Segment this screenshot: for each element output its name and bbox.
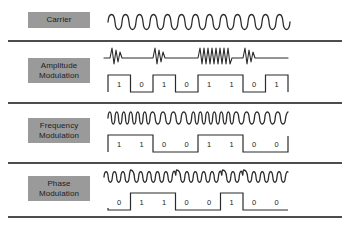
modulation-diagram: Carrier Amplitude Modulation 1 0 1 0 1 1…	[0, 0, 350, 230]
fsk-bit-0: 1	[117, 140, 121, 149]
carrier-waveform	[104, 8, 296, 36]
frequency-modulation-digital: 1 1 0 0 1 1 0 0	[104, 130, 296, 158]
label-frequency-line-2: Modulation	[39, 131, 79, 141]
label-amplitude-line-2: Modulation	[39, 71, 79, 81]
label-amplitude-line-1: Amplitude	[41, 61, 77, 71]
ask-bit-2: 1	[162, 80, 166, 89]
ask-signal-path	[104, 48, 288, 64]
psk-bit-1: 1	[140, 198, 144, 207]
fsk-bit-1: 1	[140, 140, 144, 149]
psk-digital-path	[108, 193, 288, 210]
label-frequency-line-1: Frequency	[40, 121, 79, 131]
fsk-bit-4: 1	[207, 140, 211, 149]
label-phase-line-2: Modulation	[39, 189, 79, 199]
separator-line-1	[8, 40, 342, 42]
psk-signal-path	[104, 170, 288, 182]
psk-bit-6: 0	[252, 198, 256, 207]
psk-bit-4: 0	[207, 198, 211, 207]
ask-digital-path	[108, 75, 288, 92]
label-box-frequency-modulation: Frequency Modulation	[28, 118, 90, 143]
separator-line-4	[8, 216, 342, 218]
label-carrier-line-1: Carrier	[46, 15, 71, 25]
carrier-sine-path	[108, 15, 290, 30]
ask-bit-7: 1	[275, 80, 279, 89]
fsk-signal-path	[108, 112, 288, 124]
label-phase-line-1: Phase	[47, 179, 70, 189]
separator-line-3	[8, 162, 342, 164]
fsk-bit-6: 0	[252, 140, 256, 149]
fsk-bit-7: 0	[275, 140, 279, 149]
phase-modulation-digital: 0 1 1 0 0 1 0 0	[104, 188, 296, 214]
psk-bit-2: 1	[162, 198, 166, 207]
label-box-phase-modulation: Phase Modulation	[28, 176, 90, 201]
psk-bit-0: 0	[117, 198, 121, 207]
ask-bit-4: 1	[207, 80, 211, 89]
label-box-carrier: Carrier	[28, 12, 90, 28]
fsk-digital-path	[108, 135, 288, 152]
ask-bit-1: 0	[140, 80, 144, 89]
fsk-bit-5: 1	[230, 140, 234, 149]
psk-bit-3: 0	[185, 198, 189, 207]
psk-bit-7: 0	[275, 198, 279, 207]
amplitude-modulation-waveform	[104, 44, 296, 68]
ask-bit-0: 1	[117, 80, 121, 89]
frequency-modulation-waveform	[104, 106, 296, 130]
separator-line-2	[8, 102, 342, 104]
label-box-amplitude-modulation: Amplitude Modulation	[28, 58, 90, 83]
fsk-bit-3: 0	[185, 140, 189, 149]
ask-bit-6: 0	[252, 80, 256, 89]
phase-modulation-waveform	[104, 166, 296, 188]
ask-bit-5: 1	[230, 80, 234, 89]
amplitude-modulation-digital: 1 0 1 0 1 1 0 1	[104, 70, 296, 98]
psk-bit-5: 1	[230, 198, 234, 207]
fsk-bit-2: 0	[162, 140, 166, 149]
ask-bit-3: 0	[185, 80, 189, 89]
